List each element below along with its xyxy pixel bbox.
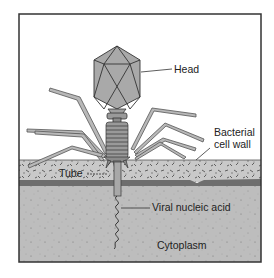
- label-cytoplasm: Cytoplasm: [157, 239, 207, 251]
- cytoplasm-region: [19, 186, 261, 262]
- label-tube: Tube: [59, 167, 83, 179]
- label-head: Head: [174, 63, 199, 75]
- label-viral-nucleic-acid: Viral nucleic acid: [152, 201, 231, 213]
- tail-sheath: [106, 122, 128, 158]
- cell-wall-layer: [19, 160, 261, 182]
- phage-diagram: Head Bacterial cell wall Tube Viral nucl…: [0, 0, 274, 278]
- label-cell-wall-2: cell wall: [214, 138, 251, 150]
- membrane-band: [19, 179, 261, 186]
- phage-head: [94, 46, 140, 109]
- tail-tube: [114, 162, 121, 196]
- label-cell-wall-1: Bacterial: [214, 126, 255, 138]
